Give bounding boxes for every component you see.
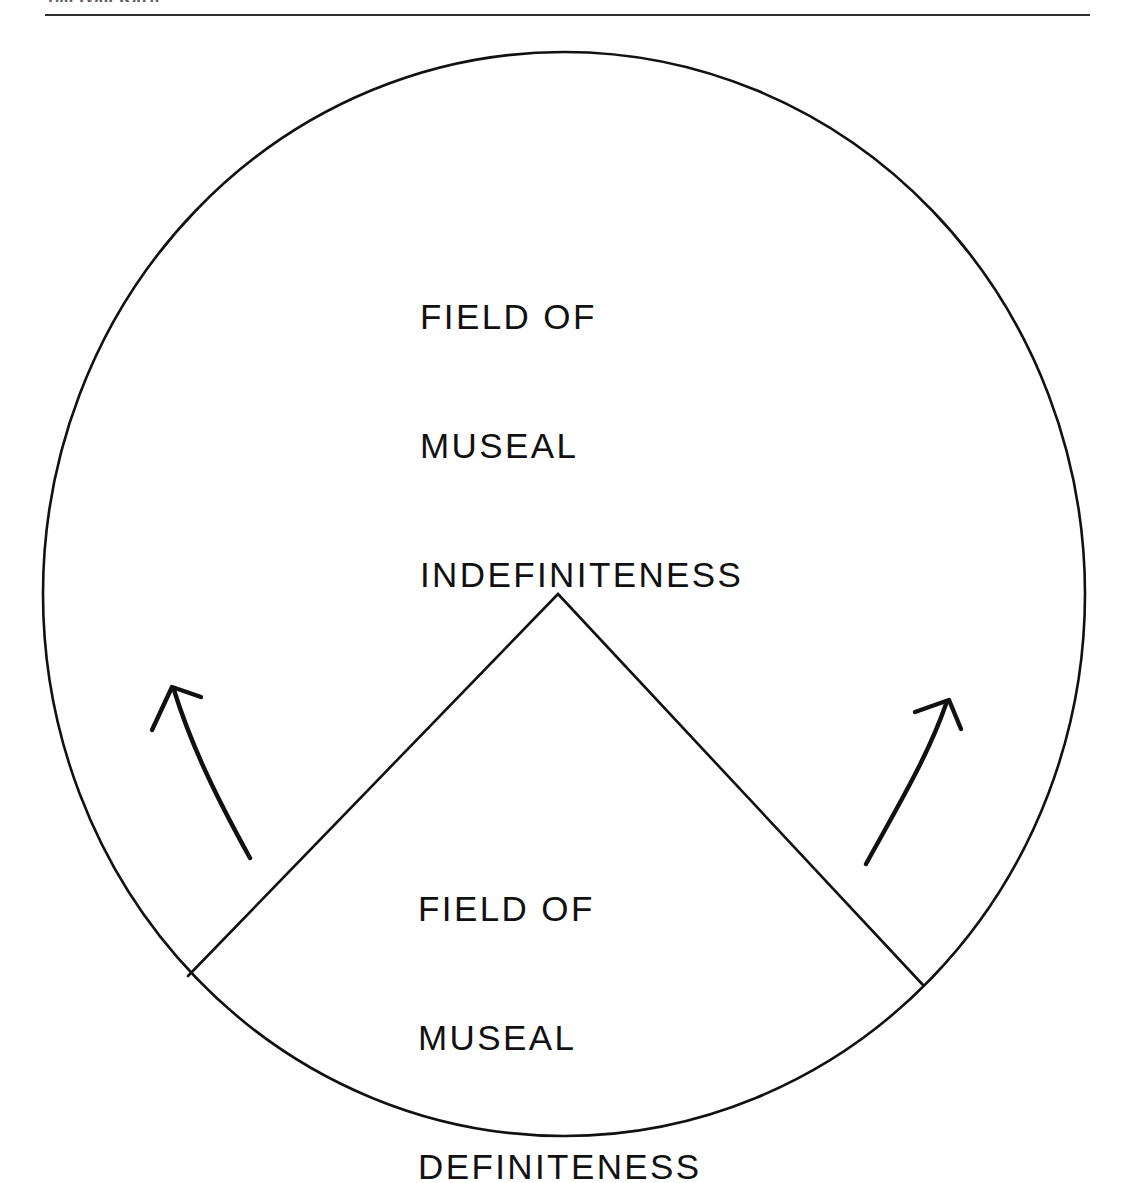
right-upward-arrow [866, 700, 961, 864]
indefiniteness-line-1: FIELD OF [420, 295, 743, 338]
definiteness-line-2: MUSEAL [418, 1016, 702, 1059]
indefiniteness-line-2: MUSEAL [420, 424, 743, 467]
field-of-museal-definiteness-label: FIELD OF MUSEAL DEFINITENESS [418, 801, 702, 1183]
indefiniteness-line-3: INDEFINITENESS [420, 553, 743, 596]
right-arrow-shaft [866, 704, 946, 864]
left-arrow-shaft [174, 690, 250, 858]
definiteness-line-1: FIELD OF [418, 887, 702, 930]
field-of-museal-indefiniteness-label: FIELD OF MUSEAL INDEFINITENESS [420, 209, 743, 639]
definiteness-line-3: DEFINITENESS [418, 1145, 702, 1183]
left-upward-arrow [152, 687, 250, 858]
